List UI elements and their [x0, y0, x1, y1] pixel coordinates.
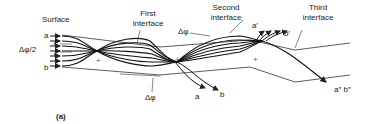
out-a-prime-label: a′ — [252, 22, 258, 30]
delta-phi-lower-label: Δφ — [145, 94, 156, 102]
rays-prime-out — [255, 31, 287, 42]
out-b-label: b — [220, 91, 224, 99]
first-interface-line1: First — [130, 10, 166, 18]
third-interface-line2: interface — [298, 14, 338, 22]
third-interface-label: Third interface — [298, 4, 338, 22]
plus-marker-2: + — [175, 56, 180, 64]
input-ray-arrows — [50, 36, 60, 66]
delta-phi-upper-label: Δφ — [178, 28, 189, 36]
first-interface-label: First interface — [130, 10, 166, 28]
second-interface-line1: Second — [206, 4, 246, 12]
interface-lines — [62, 35, 350, 82]
panel-label: (a) — [56, 113, 66, 121]
out-a-b-double-prime-label: a″ b″ — [334, 86, 351, 94]
second-interface-label: Second interface — [206, 4, 246, 22]
out-b-prime-label: b′ — [284, 30, 290, 38]
plus-marker-3: + — [253, 56, 258, 64]
half-delta-phi-label: Δφ/2 — [19, 46, 36, 54]
third-interface-line1: Third — [298, 4, 338, 12]
second-interface-line2: interface — [206, 14, 246, 22]
surface-label: Surface — [42, 16, 70, 24]
ray-a-label: a — [44, 32, 48, 40]
plus-marker-1: + — [96, 57, 101, 65]
ray-bundle-first — [62, 36, 177, 66]
first-interface-line2: interface — [130, 20, 166, 28]
ray-b-label: b — [44, 64, 48, 72]
rays-a-b-out — [175, 62, 218, 90]
half-delta-phi-bracket — [54, 40, 56, 58]
out-a-label: a — [195, 93, 199, 101]
ray-bundle-second — [177, 36, 262, 62]
